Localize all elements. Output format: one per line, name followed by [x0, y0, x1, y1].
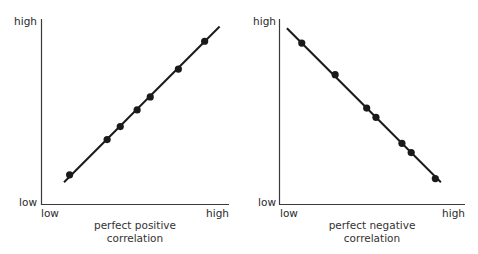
negative-correlation-chart: high low low high perfect negative corre…: [253, 15, 465, 244]
data-point: [175, 65, 182, 72]
data-point: [398, 140, 405, 147]
x-tick-high: high: [442, 207, 465, 219]
correlation-charts: high low low high perfect positive corre…: [0, 0, 478, 254]
y-tick-high: high: [253, 15, 276, 27]
positive-correlation-chart: high low low high perfect positive corre…: [14, 15, 229, 244]
data-point: [134, 106, 141, 113]
x-tick-low: low: [41, 207, 59, 219]
data-point: [147, 93, 154, 100]
data-point: [201, 38, 208, 45]
data-point: [332, 71, 339, 78]
trend-line: [64, 26, 220, 182]
data-point: [432, 175, 439, 182]
caption-line-2: correlation: [344, 232, 400, 244]
data-point: [117, 123, 124, 130]
data-point: [372, 114, 379, 121]
y-tick-low: low: [19, 196, 37, 208]
data-point: [408, 149, 415, 156]
data-point: [298, 40, 305, 47]
x-tick-high: high: [206, 207, 229, 219]
y-tick-low: low: [258, 196, 276, 208]
data-point: [363, 104, 370, 111]
caption-line-1: perfect positive: [94, 219, 176, 231]
x-tick-low: low: [280, 207, 298, 219]
data-point: [66, 171, 73, 178]
caption-line-2: correlation: [107, 232, 163, 244]
trend-line: [287, 28, 441, 182]
y-tick-high: high: [14, 15, 37, 27]
caption-line-1: perfect negative: [329, 219, 416, 231]
data-point: [104, 136, 111, 143]
